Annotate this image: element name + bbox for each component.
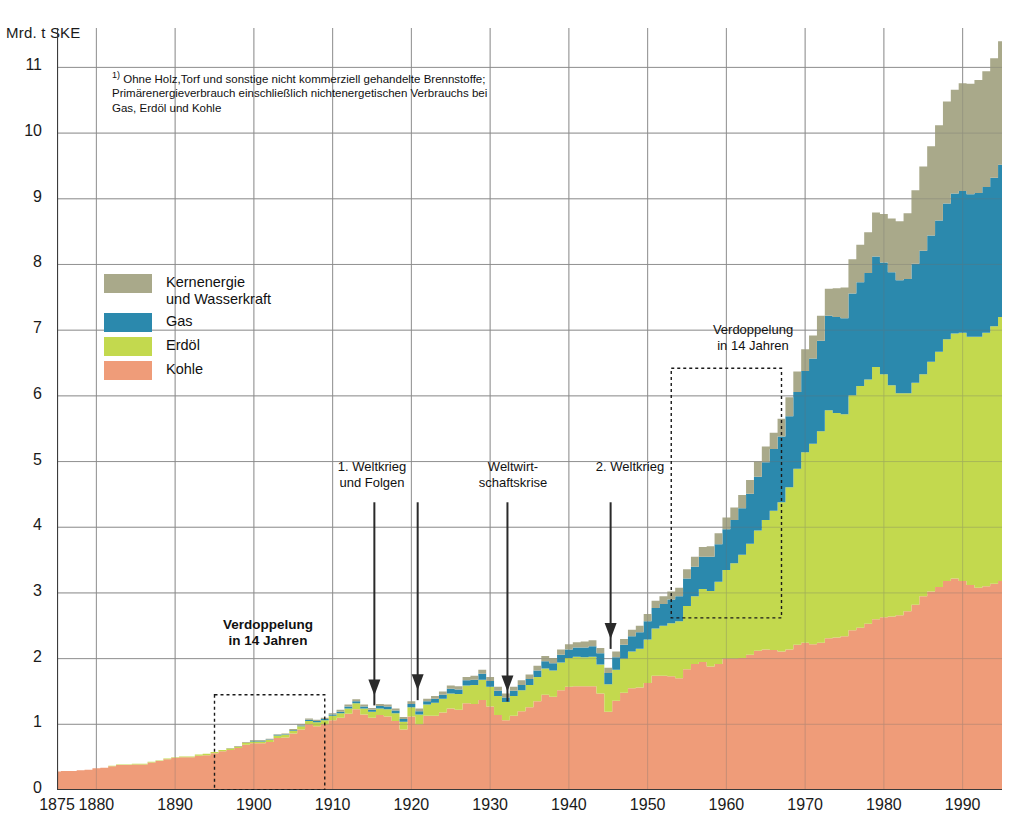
x-tick-label: 1950 (618, 796, 678, 814)
x-tick-label: 1930 (460, 796, 520, 814)
x-tick-label: 1890 (145, 796, 205, 814)
y-tick-label: 6 (12, 385, 42, 403)
x-tick-label: 1940 (539, 796, 599, 814)
legend-swatch-kernenergie (104, 274, 152, 293)
x-tick-label: 1970 (775, 796, 835, 814)
footnote-marker: 1) (112, 70, 120, 80)
y-tick-label: 3 (12, 582, 42, 600)
annotation-ww1-line2: und Folgen (339, 475, 404, 490)
annotation-ww2: 2. Weltkrieg (570, 459, 690, 475)
legend-label-kernenergie-line2: und Wasserkraft (166, 291, 271, 307)
footnote: 1) Ohne Holz,Torf und sonstige nicht kom… (112, 68, 582, 115)
x-tick-label: 1900 (224, 796, 284, 814)
annotation-doubling-right-line1: Verdoppelung (713, 322, 793, 337)
annotation-depression-line2: schaftskrise (479, 475, 548, 490)
y-tick-label: 9 (12, 188, 42, 206)
legend-item-gas: Gas (104, 313, 271, 332)
x-tick-label: 1980 (854, 796, 914, 814)
legend-swatch-erdoel (104, 337, 152, 356)
annotation-doubling-left: Verdoppelung in 14 Jahren (198, 617, 338, 649)
legend-label-erdoel: Erdöl (166, 337, 200, 354)
y-tick-label: 5 (12, 451, 42, 469)
stacked-areas (57, 41, 1002, 790)
y-tick-label: 11 (12, 56, 42, 74)
legend-label-kohle: Kohle (166, 361, 203, 378)
legend-swatch-gas (104, 313, 152, 332)
footnote-line-3: Gas, Erdöl und Kohle (112, 102, 221, 114)
x-tick-label: 1920 (381, 796, 441, 814)
legend-label-kernenergie: Kernenergie und Wasserkraft (166, 274, 271, 308)
arrow-ww1-b-head (412, 674, 424, 690)
chart-page: Mrd. t SKE 01234567891011 18751880189019… (0, 0, 1020, 824)
plot-area (57, 28, 1002, 790)
annotation-ww1: 1. Weltkrieg und Folgen (312, 459, 432, 490)
y-tick-label: 10 (12, 122, 42, 140)
annotation-ww1-line1: 1. Weltkrieg (338, 459, 406, 474)
legend-swatch-kohle (104, 361, 152, 380)
arrow-ww1-a-head (368, 679, 380, 695)
legend: Kernenergie und Wasserkraft Gas Erdöl Ko… (104, 274, 271, 385)
x-tick-label: 1960 (696, 796, 756, 814)
y-tick-label: 7 (12, 319, 42, 337)
y-tick-label: 0 (12, 779, 42, 797)
x-tick-label: 1910 (303, 796, 363, 814)
y-tick-label: 2 (12, 648, 42, 666)
y-tick-label: 1 (12, 713, 42, 731)
annotation-depression-line1: Weltwirt- (488, 459, 538, 474)
legend-item-kernenergie: Kernenergie und Wasserkraft (104, 274, 271, 308)
annotation-doubling-left-line1: Verdoppelung (223, 617, 313, 632)
legend-label-gas: Gas (166, 313, 193, 330)
y-tick-label: 8 (12, 253, 42, 271)
annotation-ww2-line1: 2. Weltkrieg (596, 459, 664, 474)
stacked-area-svg (57, 28, 1002, 790)
arrow-ww2-head (605, 623, 617, 639)
annotation-doubling-right-line2: in 14 Jahren (717, 338, 789, 353)
footnote-line-1: Ohne Holz,Torf und sonstige nicht kommer… (120, 73, 485, 85)
y-tick-label: 4 (12, 516, 42, 534)
footnote-line-2: Primärenergieverbrauch einschließlich ni… (112, 87, 487, 99)
legend-item-kohle: Kohle (104, 361, 271, 380)
legend-label-kernenergie-line1: Kernenergie (166, 274, 245, 290)
x-tick-label: 1990 (933, 796, 993, 814)
x-tick-label: 1880 (66, 796, 126, 814)
annotation-doubling-left-line2: in 14 Jahren (229, 633, 308, 648)
annotation-doubling-right: Verdoppelung in 14 Jahren (683, 322, 823, 353)
legend-item-erdoel: Erdöl (104, 337, 271, 356)
annotation-depression: Weltwirt- schaftskrise (458, 459, 568, 490)
